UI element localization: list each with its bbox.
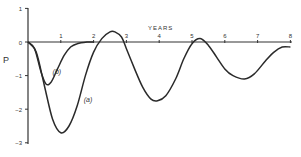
x-tick-label: 1	[59, 33, 63, 39]
x-tick-label: 2	[92, 33, 96, 39]
series-label: (a)	[84, 96, 93, 104]
series-line-b	[28, 42, 94, 85]
x-tick-label: 6	[223, 33, 227, 39]
y-ticks: 10−1−2−3	[15, 6, 28, 146]
x-tick-label: 8	[289, 33, 293, 39]
y-tick-label: −3	[15, 140, 23, 146]
y-tick-label: −2	[15, 107, 23, 113]
x-tick-label: 5	[190, 33, 194, 39]
y-tick-label: −1	[15, 73, 23, 79]
series-group	[28, 31, 290, 133]
x-tick-label: 4	[158, 33, 162, 39]
x-axis-label: YEARS	[148, 25, 173, 31]
series-line-a	[28, 31, 290, 133]
x-tick-label: 3	[125, 33, 129, 39]
x-tick-label: 7	[256, 33, 260, 39]
chart: 10−1−2−3 12345678 YEARS P (a)(b)	[0, 0, 301, 157]
y-tick-label: 1	[19, 6, 23, 12]
y-axis-label: P	[3, 55, 9, 65]
y-tick-label: 0	[19, 40, 23, 46]
series-label: (b)	[53, 68, 62, 76]
